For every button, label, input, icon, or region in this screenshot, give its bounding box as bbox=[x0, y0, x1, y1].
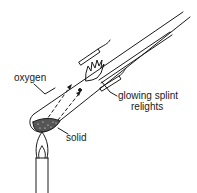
label-relights: relights bbox=[131, 101, 163, 112]
solid bbox=[33, 118, 60, 132]
bunsen-burner bbox=[36, 158, 48, 193]
arrow-head-icon bbox=[76, 91, 81, 96]
test-tube bbox=[30, 12, 190, 132]
oxygen-leader bbox=[34, 84, 55, 94]
burner-flame bbox=[36, 132, 48, 158]
gas-flow-arrows bbox=[45, 88, 78, 122]
label-solid: solid bbox=[66, 132, 87, 143]
label-oxygen: oxygen bbox=[14, 72, 46, 83]
label-glowing-splint: glowing splint bbox=[118, 90, 178, 101]
glowing-splint bbox=[79, 32, 173, 92]
